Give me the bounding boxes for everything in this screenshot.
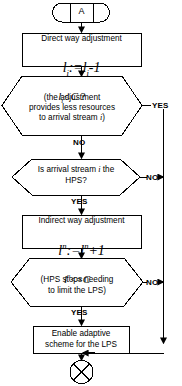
node-process-direct — [22, 33, 141, 66]
node-process-indirect — [22, 215, 141, 248]
node-connector-a — [53, 3, 110, 22]
node-decision-hps — [12, 159, 140, 195]
edge-label-no-3: NO — [146, 278, 158, 287]
edge-label-no-2: NO — [146, 173, 158, 182]
edge-label-yes-2: YES — [71, 197, 88, 206]
edge-label-no-1: NO — [73, 138, 85, 147]
node-decision-ln-le-c — [11, 258, 143, 306]
node-terminator-x — [70, 361, 93, 384]
node-decision-li-lt-c — [2, 76, 142, 135]
flowchart-diagram: A Direct way adjustment li:=li-1 li<C ? … — [0, 0, 182, 386]
node-process-enable — [33, 326, 129, 353]
edge-label-yes-3: YES — [71, 308, 88, 317]
edge-label-yes-1: YES — [152, 101, 169, 110]
flowchart-canvas — [0, 0, 182, 386]
